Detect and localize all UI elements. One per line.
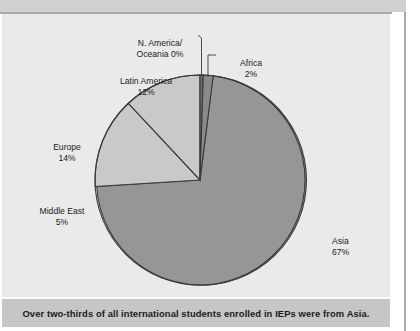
pie-label-africa: Africa 2% — [214, 58, 288, 79]
pie-label-europe-line1: Europe — [53, 142, 81, 152]
pie-label-latin-america-line2: 12% — [98, 87, 194, 98]
pie-label-north-america-oceania-line2: Oceania 0% — [106, 49, 214, 60]
pie-label-middle-east-line1: Middle East — [40, 206, 85, 216]
pie-label-asia-line2: 67% — [332, 247, 392, 258]
figure-page: N. America/ Oceania 0% Africa 2% Latin A… — [0, 0, 420, 331]
pie-label-europe-line2: 14% — [30, 153, 104, 164]
right-divider-rule — [404, 12, 406, 331]
pie-label-middle-east: Middle East 5% — [16, 206, 108, 227]
page-top-strip — [0, 0, 420, 12]
pie-label-latin-america-line1: Latin America — [120, 76, 172, 86]
pie-label-north-america-oceania: N. America/ Oceania 0% — [106, 38, 214, 59]
pie-label-latin-america: Latin America 12% — [98, 76, 194, 97]
pie-label-north-america-oceania-line1: N. America/ — [138, 38, 182, 48]
pie-label-asia-line1: Asia — [332, 236, 349, 246]
figure-caption-bar: Over two-thirds of all international stu… — [2, 299, 390, 327]
pie-label-europe: Europe 14% — [30, 142, 104, 163]
pie-label-middle-east-line2: 5% — [16, 217, 108, 228]
figure-caption-text: Over two-thirds of all international stu… — [22, 308, 369, 319]
pie-label-africa-line2: 2% — [214, 69, 288, 80]
page-right-strip — [406, 0, 420, 331]
pie-chart: N. America/ Oceania 0% Africa 2% Latin A… — [2, 14, 390, 297]
pie-label-africa-line1: Africa — [240, 58, 262, 68]
pie-label-asia: Asia 67% — [332, 236, 392, 257]
